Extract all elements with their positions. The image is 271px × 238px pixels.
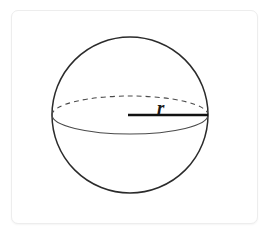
equator-front-arc-solid: [52, 115, 208, 134]
figure-canvas: r: [0, 0, 271, 238]
sphere-diagram: r: [0, 0, 271, 238]
equator-back-arc-dashed: [52, 96, 208, 115]
radius-label: r: [157, 97, 165, 118]
